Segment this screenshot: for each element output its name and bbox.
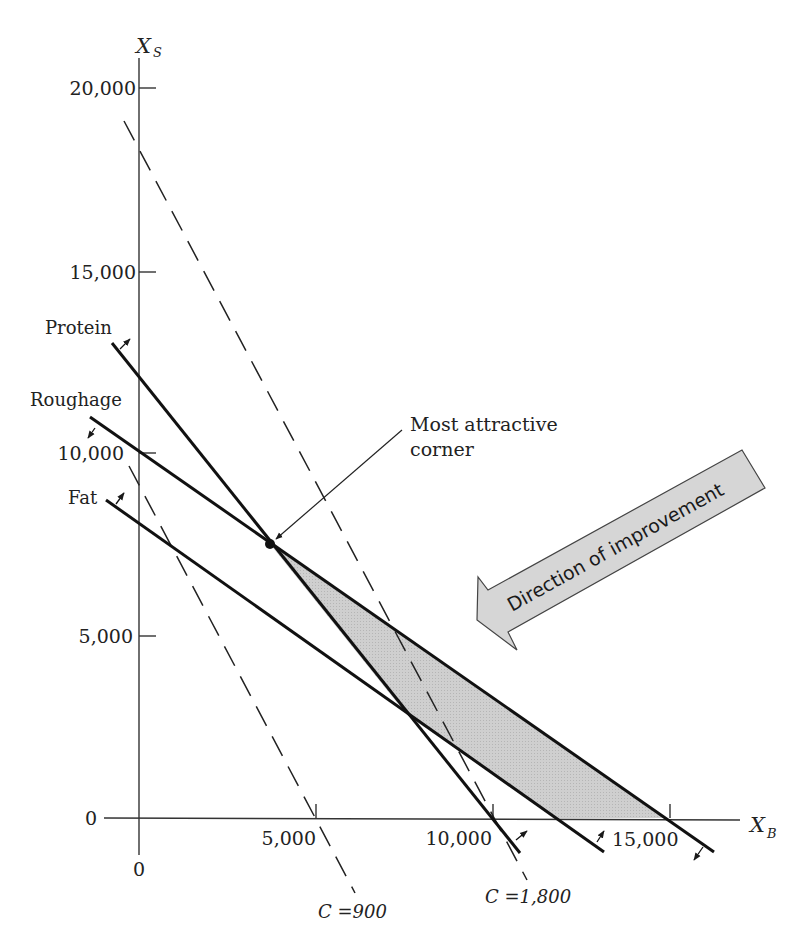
corner-pointer-arrow-icon bbox=[276, 430, 402, 539]
y-tick-label: 5,000 bbox=[79, 625, 133, 647]
cost-900-label: C =900 bbox=[318, 901, 387, 922]
x-tick-label: 10,000 bbox=[426, 827, 492, 849]
chart-canvas: XS XB 20,000 15,000 10,000 5,000 0 0 5,0… bbox=[0, 0, 805, 947]
y-tick-label: 10,000 bbox=[58, 442, 124, 464]
y-tick-label: 0 bbox=[85, 807, 97, 829]
roughage-direction-arrow-icon bbox=[694, 847, 703, 860]
cost-1800-label: C =1,800 bbox=[485, 886, 571, 907]
fat-direction-arrow-icon bbox=[116, 493, 124, 504]
fat-label: Fat bbox=[68, 487, 98, 508]
corner-annotation-line2: corner bbox=[410, 438, 475, 460]
y-tick-label: 20,000 bbox=[70, 77, 136, 99]
direction-of-improvement-label: Direction of improvement bbox=[503, 478, 727, 615]
direction-of-improvement-arrow: Direction of improvement bbox=[477, 450, 765, 650]
optimal-corner-point bbox=[265, 539, 275, 549]
iso-cost-line-900 bbox=[129, 466, 355, 893]
x-tick-label: 0 bbox=[133, 858, 145, 880]
roughage-constraint-line bbox=[90, 417, 714, 852]
fat-constraint-line bbox=[106, 500, 604, 852]
protein-label: Protein bbox=[45, 317, 112, 338]
x-tick-label: 15,000 bbox=[612, 828, 678, 850]
roughage-label: Roughage bbox=[30, 389, 122, 410]
iso-cost-line-1800 bbox=[124, 121, 527, 880]
y-axis-title: XS bbox=[134, 34, 162, 60]
corner-annotation-line1: Most attractive bbox=[410, 413, 558, 435]
fat-direction-arrow-icon bbox=[597, 831, 604, 842]
protein-direction-arrow-icon bbox=[120, 339, 130, 349]
y-tick-label: 15,000 bbox=[70, 261, 136, 283]
lp-diet-chart: XS XB 20,000 15,000 10,000 5,000 0 0 5,0… bbox=[0, 0, 805, 947]
x-axis-title: XB bbox=[748, 813, 777, 841]
x-tick-label: 5,000 bbox=[262, 827, 316, 849]
roughage-direction-arrow-icon bbox=[88, 428, 95, 438]
protein-direction-arrow-icon bbox=[516, 831, 527, 840]
